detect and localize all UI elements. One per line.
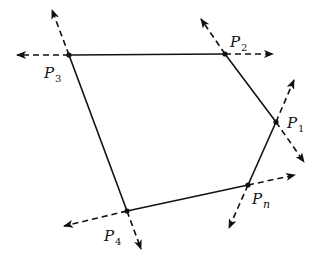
arrow-icon	[201, 19, 225, 54]
polygon-edges	[69, 54, 276, 211]
arrow-icon	[64, 211, 127, 226]
vertex-Pn	[245, 182, 250, 187]
edge-P1-P2	[225, 54, 276, 122]
vertex-label-Pn: Pn	[251, 190, 270, 211]
vertex-label-P1: P1	[286, 114, 304, 134]
edge-P4-Pn	[127, 185, 248, 211]
edge-P3-P4	[69, 55, 127, 211]
vertex-P1	[273, 119, 278, 124]
direction-arrows	[17, 10, 304, 249]
arrow-icon	[248, 175, 295, 185]
vertex-labels: P1P2P3P4Pn	[43, 33, 304, 247]
vertex-P3	[66, 52, 71, 57]
vertex-P4	[124, 208, 129, 213]
arrow-icon	[127, 211, 141, 249]
arrow-icon	[229, 185, 248, 228]
vertex-label-P4: P4	[103, 227, 121, 247]
edge-Pn-P1	[248, 122, 276, 185]
polygon-diagram: P1P2P3P4Pn	[0, 0, 329, 256]
vertex-label-P3: P3	[43, 64, 61, 84]
arrow-icon	[52, 10, 69, 55]
edge-P2-P3	[69, 54, 225, 55]
vertex-P2	[222, 51, 227, 56]
vertex-label-P2: P2	[229, 33, 247, 53]
